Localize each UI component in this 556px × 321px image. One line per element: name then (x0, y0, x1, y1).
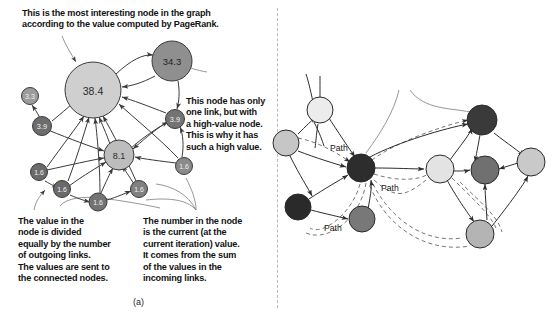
pagerank-node: 1.6 (54, 181, 71, 198)
pagerank-node: 1.6 (131, 181, 148, 198)
centrality-node (426, 155, 454, 183)
centrality-node (347, 154, 375, 182)
pagerank-node: 3.9 (166, 110, 185, 129)
node-value-label: 3.3 (25, 92, 35, 101)
centrality-node (471, 156, 499, 184)
centrality-node (273, 130, 299, 156)
node-value-label: 8.1 (113, 151, 126, 161)
annotation-value-division: The value in the node is divided equally… (18, 216, 140, 284)
node-value-label: 1.6 (134, 186, 144, 193)
pagerank-node: 34.3 (152, 41, 192, 81)
node-value-label: 3.9 (37, 122, 47, 131)
path-label: Path (381, 183, 399, 193)
path-label: Path (330, 143, 348, 153)
panel-a-pagerank: 38.434.38.13.33.93.91.61.61.61.61.6 This… (0, 0, 278, 321)
node-value-label: 34.3 (163, 56, 182, 67)
node-value-label: 1.6 (179, 163, 189, 170)
graph-edges-b (290, 74, 528, 226)
pagerank-node: 1.6 (31, 164, 48, 181)
node-value-label: 1.6 (34, 169, 44, 176)
annotation-single-link-node: This node has only one link, but with a … (186, 96, 278, 153)
node-value-label: 3.9 (170, 115, 180, 124)
centrality-node (349, 206, 375, 232)
subfigure-label-a: (a) (133, 297, 144, 307)
pagerank-node: 3.3 (22, 88, 39, 105)
annotation-current-value: The number in the node is the current (a… (143, 216, 275, 284)
pagerank-node: 8.1 (104, 140, 134, 170)
path-label: Path (324, 223, 342, 233)
node-value-label: 38.4 (83, 85, 104, 97)
panel-b-graph: PathPathPath (278, 0, 556, 321)
centrality-node (307, 97, 333, 123)
centrality-node (467, 105, 497, 135)
centrality-node (466, 220, 494, 248)
graph-nodes-b (273, 97, 545, 248)
pagerank-node: 3.9 (33, 117, 52, 136)
panel-b-centrality: PathPathPath These nodes have the highes… (278, 0, 556, 321)
graph-nodes-a: 38.434.38.13.33.93.91.61.61.61.61.6 (22, 41, 193, 211)
centrality-node (517, 148, 545, 176)
leader-lines-b (366, 90, 470, 153)
pagerank-node: 1.6 (176, 158, 193, 175)
node-value-label: 1.6 (57, 186, 67, 193)
annotation-most-interesting-node: This is the most interesting node in the… (22, 8, 256, 31)
node-value-label: 1.6 (93, 199, 103, 206)
centrality-node (285, 194, 311, 220)
pagerank-node: 38.4 (65, 62, 121, 118)
figure-container: 38.434.38.13.33.93.91.61.61.61.61.6 This… (0, 0, 556, 321)
pagerank-node: 1.6 (89, 193, 107, 211)
